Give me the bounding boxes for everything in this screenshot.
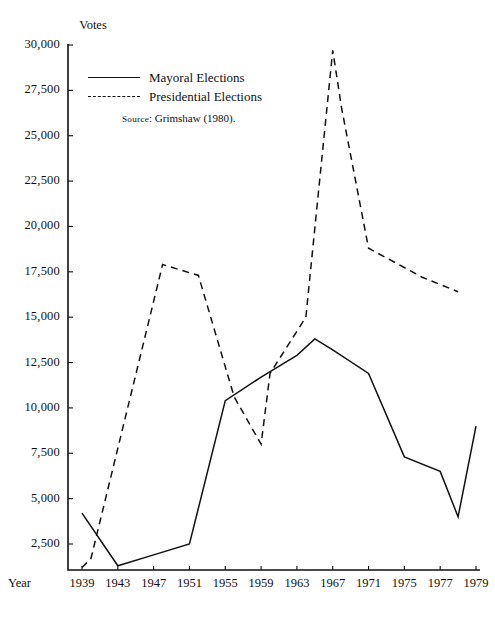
y-tick-label: 7,500 [0,445,60,460]
y-tick-label: 22,500 [0,173,60,188]
y-tick-label: 10,000 [0,400,60,415]
y-tick-label: 30,000 [0,37,60,52]
y-tick-label: 27,500 [0,82,60,97]
series-line-presidential [82,50,458,567]
y-tick-label: 17,500 [0,264,60,279]
y-tick-label: 2,500 [0,536,60,551]
x-tick-label: 1979 [450,576,495,591]
plot-area [0,0,495,618]
axes [68,44,480,570]
y-tick-label: 5,000 [0,491,60,506]
votes-line-chart: Votes Year Mayoral Elections Presidentia… [0,0,495,618]
y-tick-label: 15,000 [0,309,60,324]
axis-lines [68,44,480,570]
y-tick-label: 25,000 [0,128,60,143]
y-tick-label: 20,000 [0,218,60,233]
series-line-mayoral [82,339,476,566]
y-tick-label: 12,500 [0,355,60,370]
